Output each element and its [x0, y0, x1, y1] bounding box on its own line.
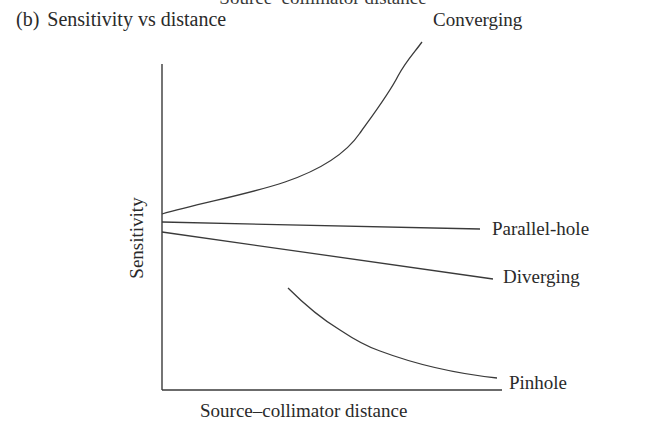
label-parallel-hole: Parallel-hole: [492, 218, 589, 240]
series-line-pinhole: [288, 288, 497, 378]
label-converging: Converging: [433, 9, 522, 31]
series-line-diverging: [162, 232, 493, 279]
x-axis-label: Source–collimator distance: [200, 400, 407, 422]
series-line-converging: [162, 42, 422, 214]
label-diverging: Diverging: [503, 266, 580, 288]
series-line-parallel-hole: [162, 222, 480, 229]
y-axis-label: Sensitivity: [126, 197, 148, 278]
label-pinhole: Pinhole: [509, 372, 567, 394]
